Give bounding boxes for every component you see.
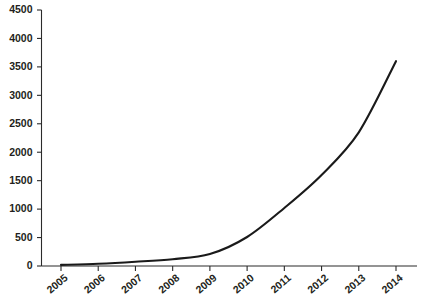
y-tick-label: 3000 bbox=[9, 89, 33, 101]
y-tick-label: 500 bbox=[15, 231, 33, 243]
chart-background bbox=[0, 0, 421, 303]
y-tick-label: 0 bbox=[27, 259, 33, 271]
y-tick-label: 3500 bbox=[9, 60, 33, 72]
y-tick-label: 1500 bbox=[9, 174, 33, 186]
chart-figure: 050010001500200025003000350040004500 200… bbox=[0, 0, 421, 303]
y-tick-label: 1000 bbox=[9, 202, 33, 214]
line-chart-canvas: 050010001500200025003000350040004500 200… bbox=[0, 0, 421, 303]
y-tick-label: 2000 bbox=[9, 146, 33, 158]
y-tick-label: 4000 bbox=[9, 32, 33, 44]
y-tick-label: 4500 bbox=[9, 3, 33, 15]
y-tick-label: 2500 bbox=[9, 117, 33, 129]
